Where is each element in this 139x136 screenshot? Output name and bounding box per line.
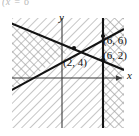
- inequality-graph-figure: (x = 6: [0, 0, 139, 136]
- vertex-dot-2-4: [72, 46, 76, 50]
- vertex-label-6-2: (6, 2): [103, 50, 127, 61]
- cropped-text-remnant: (x = 6: [2, 0, 62, 8]
- y-axis-label: y: [59, 12, 64, 23]
- x-axis-label: x: [127, 70, 132, 81]
- vertex-label-6-6: (6, 6): [103, 35, 127, 46]
- vertex-label-2-4: (2, 4): [63, 57, 87, 68]
